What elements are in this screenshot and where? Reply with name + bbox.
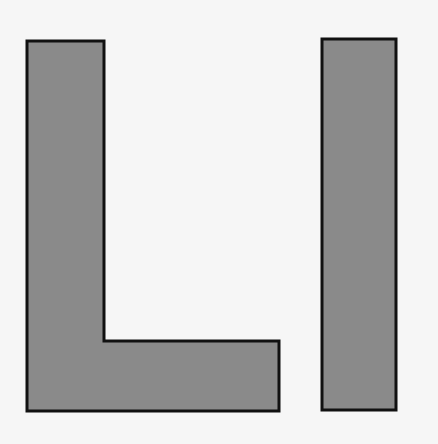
letter-i-shape xyxy=(322,39,396,410)
letter-l-shape xyxy=(27,41,279,411)
letters-canvas xyxy=(0,0,438,444)
